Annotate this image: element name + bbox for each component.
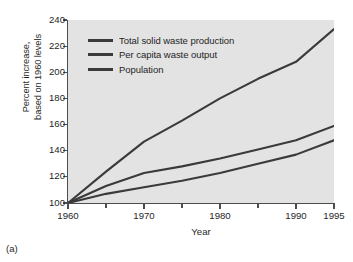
legend-item-total-solid-waste-production: Total solid waste production <box>88 33 278 48</box>
x-axis-tick-label-1960: 1960 <box>48 210 88 221</box>
x-axis-minor-tick-1965 <box>105 204 106 208</box>
x-axis-tick-label-1980: 1980 <box>200 210 240 221</box>
figure-caption: (a) <box>6 243 18 254</box>
y-axis-tick-label-100: 100 <box>25 198 65 208</box>
x-axis-tick-1990 <box>295 204 296 209</box>
x-axis-title: Year <box>68 226 334 237</box>
y-axis-tick-label-240: 240 <box>25 15 65 25</box>
x-axis-minor-tick-1975 <box>181 204 182 208</box>
legend-label-2: Population <box>119 64 163 75</box>
y-axis-tick-label-120: 120 <box>25 171 65 181</box>
legend-item-population: Population <box>88 62 278 77</box>
x-axis-tick-1995 <box>333 204 334 209</box>
legend-label-1: Per capita waste output <box>119 49 217 60</box>
x-axis-tick-label-1995: 1995 <box>314 210 353 221</box>
y-axis-tick-label-160: 160 <box>25 119 65 129</box>
x-axis-minor-tick-1985 <box>257 204 258 208</box>
legend-label-0: Total solid waste production <box>119 35 234 46</box>
y-axis-tick-label-220: 220 <box>25 41 65 51</box>
y-axis-tick-label-140: 140 <box>25 145 65 155</box>
series-line-per-capita-waste-output <box>68 126 334 203</box>
y-axis-spine <box>67 20 68 204</box>
x-axis-tick-1960 <box>67 204 68 209</box>
legend-swatch-icon-1 <box>88 53 113 56</box>
x-axis-tick-label-1990: 1990 <box>276 210 316 221</box>
x-axis-tick-label-1970: 1970 <box>124 210 164 221</box>
series-line-population <box>68 140 334 203</box>
y-axis-tick-label-180: 180 <box>25 93 65 103</box>
chart-legend: Total solid waste production Per capita … <box>88 33 278 77</box>
figure-container: Percent increase, based on 1960 levels 1… <box>0 0 353 262</box>
x-axis-tick-1980 <box>219 204 220 209</box>
legend-swatch-icon-2 <box>88 68 113 71</box>
y-axis-tick-label-200: 200 <box>25 67 65 77</box>
legend-swatch-icon-0 <box>88 39 113 42</box>
legend-item-per-capita-waste-output: Per capita waste output <box>88 48 278 63</box>
x-axis-tick-1970 <box>143 204 144 209</box>
